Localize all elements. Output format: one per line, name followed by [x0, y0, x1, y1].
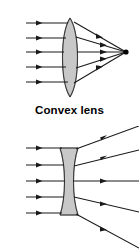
ray-arrow-icon: [36, 35, 43, 40]
ray-arrow-icon: [36, 162, 43, 167]
refracted-ray: [74, 150, 139, 166]
focal-point: [123, 49, 128, 54]
ray-arrow-icon: [36, 145, 43, 150]
concave-refracted-arrowheads: [100, 135, 107, 232]
concave-incoming-rays: [26, 148, 65, 213]
ray-arrow-icon: [100, 202, 107, 207]
convex-incoming-rays: [26, 23, 68, 82]
ray-arrow-icon: [36, 49, 43, 54]
refracted-ray: [74, 197, 139, 212]
ray-arrow-icon: [36, 194, 43, 199]
ray-arrow-icon: [36, 210, 43, 215]
lens-ray-diagram-figure: Convex lens: [0, 0, 139, 252]
ray-arrow-icon: [36, 20, 43, 25]
ray-arrow-icon: [100, 178, 107, 183]
refracted-ray: [76, 126, 139, 149]
ray-arrow-icon: [36, 79, 43, 84]
ray-arrow-icon: [100, 57, 107, 62]
ray-arrow-icon: [36, 64, 43, 69]
ray-arrow-icon: [100, 42, 107, 47]
convex-lens-caption: Convex lens: [0, 104, 139, 116]
ray-arrow-icon: [100, 49, 107, 54]
refracted-ray: [76, 214, 139, 248]
convex-lens-panel: Convex lens: [0, 0, 139, 126]
ray-arrow-icon: [36, 178, 43, 183]
concave-lens-diagram: [0, 126, 139, 252]
concave-lens-panel: Concave lens: [0, 126, 139, 252]
